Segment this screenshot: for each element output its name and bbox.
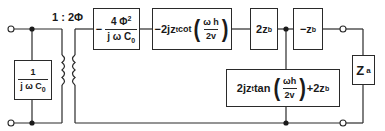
box1-num-text: 4 Φ <box>111 16 128 27</box>
box1-numerator: 4 Φ2 <box>109 15 133 29</box>
shunt-suffix: +2z <box>307 82 325 94</box>
transformer-ratio-label: 1 : 2Φ <box>52 11 83 23</box>
load-sub: a <box>366 66 370 75</box>
shunt-func: tan <box>254 82 271 94</box>
shunt-suffix-sub: b <box>325 85 329 92</box>
left-paren: ( <box>194 17 201 41</box>
circuit-diagram: 1 : 2Φ 1 j ω C0 − 4 Φ2 j ω C0 −2jzt cot … <box>0 0 385 131</box>
load-text: Z <box>356 63 364 78</box>
box3-sub: b <box>268 26 272 33</box>
load-impedance-box: Za <box>352 55 375 85</box>
capacitor-den-sub: 0 <box>42 86 46 93</box>
capacitor-den-text: j ω C <box>20 81 42 91</box>
shunt-arg-den: 2v <box>283 88 297 100</box>
capacitor-denominator: j ω C0 <box>18 79 48 93</box>
box1-den-text: j ω C <box>107 31 131 42</box>
box1-denominator: j ω C0 <box>105 29 137 44</box>
cotangent-impedance-box: −2jzt cot ( ω h 2v ) <box>152 8 232 50</box>
box2-func: cot <box>178 24 192 34</box>
input-terminal-bottom <box>8 120 14 126</box>
box2-prefix: −2jz <box>155 23 176 35</box>
shunt-prefix: 2jz <box>237 82 252 94</box>
box1-den-sub: 0 <box>131 37 135 44</box>
output-terminal-top <box>340 26 346 32</box>
box3-text: 2z <box>256 23 268 35</box>
minus-sign: − <box>96 23 102 35</box>
box4-text: −z <box>300 23 312 35</box>
negative-capacitance-box: − 4 Φ2 j ω C0 <box>93 8 140 50</box>
box2-arg-num: ω h <box>201 18 221 29</box>
capacitor-box: 1 j ω C0 <box>14 60 52 100</box>
right-paren: ) <box>222 17 229 41</box>
tangent-shunt-box: 2jzt tan ( ωh 2v ) +2zb <box>226 69 340 107</box>
input-terminal-top <box>8 26 14 32</box>
shunt-left-paren: ( <box>273 76 280 100</box>
shunt-arg-num: ωh <box>281 77 298 88</box>
box4-sub: b <box>312 26 316 33</box>
capacitor-numerator: 1 <box>28 68 37 79</box>
box2-arg-den: 2v <box>204 29 218 41</box>
series-neg-zb-box: −zb <box>293 8 323 50</box>
series-2zb-box: 2zb <box>250 8 278 50</box>
shunt-right-paren: ) <box>299 76 306 100</box>
output-terminal-bottom <box>340 120 346 126</box>
box1-num-sup: 2 <box>128 15 132 22</box>
